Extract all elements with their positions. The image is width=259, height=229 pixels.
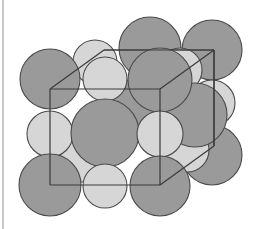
lattice-svg <box>0 0 259 229</box>
small-ion-sphere <box>83 164 127 208</box>
front-spheres <box>19 48 192 216</box>
large-ion-sphere <box>71 99 139 167</box>
small-ion-sphere <box>83 57 127 101</box>
crystal-lattice-diagram <box>0 0 259 229</box>
